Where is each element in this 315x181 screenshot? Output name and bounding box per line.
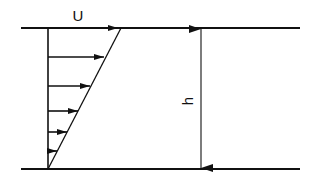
velocity-profile-line (48, 28, 121, 169)
velocity-label: U (73, 7, 84, 24)
couette-flow-diagram: U h (0, 0, 315, 181)
velocity-arrows (48, 28, 118, 151)
height-label: h (179, 97, 196, 105)
